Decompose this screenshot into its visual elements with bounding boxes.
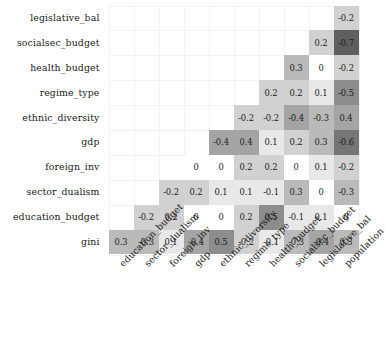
y-axis-label-socialsec-budget: socialsec_budget <box>0 37 100 48</box>
y-axis-label-ethnic-diversity: ethnic_diversity <box>0 112 100 123</box>
heatmap-cell: 0.1 <box>259 130 284 155</box>
heatmap-cell: 0.1 <box>309 80 334 105</box>
heatmap-cell: 0 <box>209 155 234 180</box>
gridline-horizontal <box>109 6 359 7</box>
heatmap-cell: -0.3 <box>309 105 334 130</box>
heatmap-cell: -0.4 <box>284 105 309 130</box>
y-axis-label-sector-dualism: sector_dualism <box>0 186 100 197</box>
heatmap-cell: 0 <box>184 155 209 180</box>
y-axis-label-health-budget: health_budget <box>0 62 100 73</box>
y-axis-label-gdp: gdp <box>0 136 100 147</box>
heatmap-cell: 0.2 <box>234 155 259 180</box>
heatmap-cell: -0.2 <box>334 6 359 31</box>
y-axis-label-regime-type: regime_type <box>0 87 100 98</box>
heatmap-cell: 0.1 <box>309 155 334 180</box>
y-axis-label-legislative-bal: legislative_bal <box>0 12 100 23</box>
heatmap-cell: 0 <box>309 55 334 80</box>
heatmap-cell: -0.4 <box>209 130 234 155</box>
heatmap-cell: 0.2 <box>259 80 284 105</box>
heatmap-cell: -0.2 <box>234 105 259 130</box>
heatmap-cell: 0.2 <box>284 130 309 155</box>
heatmap-cell: 0.3 <box>309 130 334 155</box>
heatmap-cell: -0.7 <box>334 30 359 55</box>
heatmap-cell: 0.2 <box>259 155 284 180</box>
heatmap-cell: -0.3 <box>334 180 359 205</box>
y-axis-label-foreign-inv: foreign_inv <box>0 161 100 172</box>
heatmap-cell: 0.1 <box>234 180 259 205</box>
heatmap-cell: 0.3 <box>284 55 309 80</box>
heatmap-cell: 0 <box>309 180 334 205</box>
heatmap-cell: -0.2 <box>159 180 184 205</box>
heatmap-cell: 0.3 <box>284 180 309 205</box>
y-axis-label-gini: gini <box>0 236 100 247</box>
heatmap-cell: 0 <box>209 205 234 230</box>
heatmap-cell: -0.2 <box>334 155 359 180</box>
heatmap-cell: -0.5 <box>334 80 359 105</box>
heatmap-cell: 0.2 <box>184 180 209 205</box>
heatmap-cell: 0.1 <box>209 180 234 205</box>
heatmap-cell: 0.4 <box>234 130 259 155</box>
heatmap-cell: -0.6 <box>334 130 359 155</box>
heatmap-cell: 0.2 <box>284 80 309 105</box>
heatmap-cell: 0 <box>284 155 309 180</box>
heatmap-cell: 0.4 <box>334 105 359 130</box>
heatmap-cell: -0.1 <box>259 180 284 205</box>
heatmap-cell: -0.2 <box>259 105 284 130</box>
heatmap-cell: 0.2 <box>309 30 334 55</box>
y-axis-label-education-budget: education_budget <box>0 211 100 222</box>
heatmap-cell: -0.2 <box>334 55 359 80</box>
